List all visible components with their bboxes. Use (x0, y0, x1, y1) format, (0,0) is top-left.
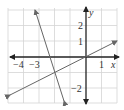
x-tick-label-neg4: −4 (13, 59, 24, 70)
y-tick-label-1: 1 (78, 36, 83, 47)
coordinate-plane: −4 −3 1 x y 2 1 −2 (0, 0, 124, 110)
y-tick-label-neg2: −2 (71, 83, 82, 94)
x-axis-label: x (110, 59, 116, 70)
y-axis-label: y (88, 7, 94, 18)
y-tick-label-2: 2 (78, 20, 83, 31)
grid (8, 8, 117, 103)
x-tick-label-neg3: −3 (29, 59, 40, 70)
x-tick-label-1: 1 (99, 59, 104, 70)
